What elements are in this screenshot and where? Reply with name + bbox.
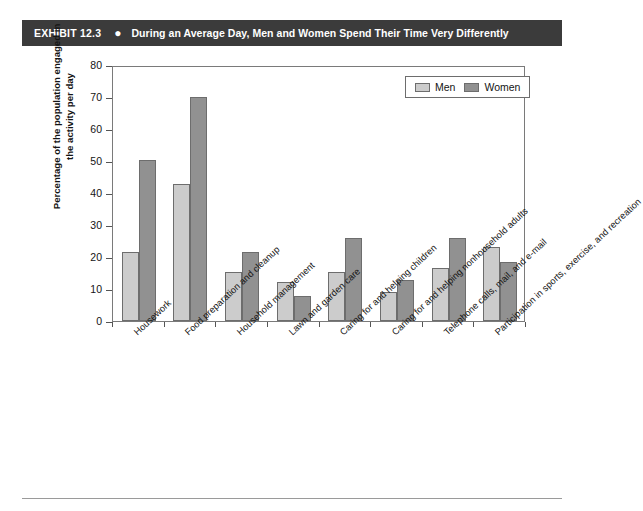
bullet-icon: ● [114, 27, 121, 39]
y-axis-tick-label: 10 [62, 283, 102, 295]
bar-men [173, 184, 190, 321]
y-axis-tick [106, 130, 112, 131]
legend-label-women: Women [484, 81, 520, 93]
y-axis-tick-label: 70 [62, 91, 102, 103]
x-axis-tick [267, 322, 268, 327]
legend-item-women: Women [464, 81, 520, 93]
bar-women [190, 97, 207, 321]
y-axis-tick [106, 66, 112, 67]
bar-chart: Percentage of the population engaged in … [0, 46, 584, 466]
exhibit-header-bar: EXHIBIT 12.3 ● During an Average Day, Me… [22, 20, 562, 46]
y-axis-title-line1: Percentage of the population engaged in [51, 24, 62, 210]
x-axis-tick [525, 322, 526, 327]
y-axis-title-line2: the activity per day [63, 73, 74, 160]
x-axis-tick [319, 322, 320, 327]
x-axis-tick [370, 322, 371, 327]
x-axis-tick [215, 322, 216, 327]
x-axis-tick [164, 322, 165, 327]
y-axis-tick-label: 60 [62, 123, 102, 135]
legend-label-men: Men [435, 81, 455, 93]
y-axis-tick-label: 50 [62, 155, 102, 167]
y-axis-tick-label: 20 [62, 251, 102, 263]
y-axis-tick [106, 258, 112, 259]
y-axis-tick [106, 162, 112, 163]
legend-swatch-men [415, 83, 430, 92]
footer-divider [22, 498, 562, 499]
x-axis-tick [422, 322, 423, 327]
y-axis-tick-label: 40 [62, 187, 102, 199]
y-axis-tick [106, 226, 112, 227]
y-axis-tick-label: 0 [62, 315, 102, 327]
y-axis-tick [106, 194, 112, 195]
y-axis-tick [106, 98, 112, 99]
chart-legend: Men Women [405, 76, 530, 98]
y-axis-tick-label: 80 [62, 59, 102, 71]
bar-men [122, 252, 139, 321]
x-axis-tick [473, 322, 474, 327]
y-axis-tick-label: 30 [62, 219, 102, 231]
plot-area: Men Women [112, 66, 525, 322]
exhibit-title: During an Average Day, Men and Women Spe… [131, 27, 508, 39]
legend-item-men: Men [415, 81, 455, 93]
x-axis-tick [112, 322, 113, 327]
y-axis-tick [106, 290, 112, 291]
bar-women [139, 160, 156, 321]
legend-swatch-women [464, 83, 479, 92]
